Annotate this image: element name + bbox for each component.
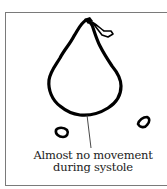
ventricle-outline xyxy=(49,20,121,115)
right-blob xyxy=(138,117,149,127)
pointer-line xyxy=(87,115,91,148)
left-blob xyxy=(56,128,68,137)
caption-line-2: during systole xyxy=(20,161,166,173)
